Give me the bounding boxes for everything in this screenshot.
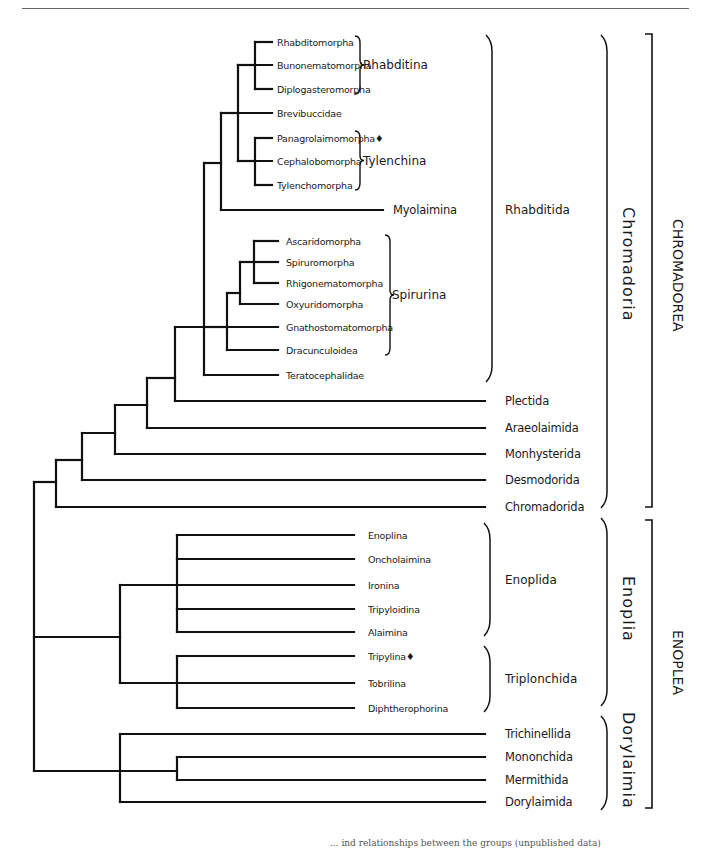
taxon-label: Rhigonematomorpha <box>286 278 383 289</box>
group-label-enoplida: Enoplida <box>505 573 557 587</box>
taxon-label: Oncholaimina <box>368 554 431 565</box>
taxon-label: Araeolaimida <box>505 421 579 435</box>
taxon-label: Diphtherophorina <box>368 703 448 714</box>
taxon-label: Oxyuridomorpha <box>286 299 363 310</box>
taxon-label: Spiruromorpha <box>286 257 354 268</box>
bracket-chromadorea <box>645 34 652 507</box>
rank-label-chromadoria: Chromadoria <box>619 207 638 322</box>
taxon-label: Tylenchomorpha <box>277 180 353 191</box>
taxon-label: Mononchida <box>505 750 573 764</box>
bracket-enoplida <box>484 523 490 636</box>
taxon-label: Monhysterida <box>505 447 581 461</box>
taxon-label: Desmodorida <box>505 473 580 487</box>
taxon-label: Tripyloidina <box>368 604 420 615</box>
taxon-label: Dorylaimida <box>505 795 572 809</box>
bracket-dorylaimia <box>601 716 607 810</box>
taxon-label: Diplogasteromorpha <box>277 84 371 95</box>
group-label-rhabditida: Rhabditida <box>505 203 570 217</box>
taxon-label: Cephalobomorpha <box>277 156 362 167</box>
taxon-label: Ironina <box>368 580 399 591</box>
caption-fragment: ... ind relationships between the groups… <box>330 838 601 848</box>
taxon-label: Rhabditomorpha <box>277 37 354 48</box>
taxon-label: Dracunculoidea <box>286 345 358 356</box>
group-label-triplonchida: Triplonchida <box>505 672 577 686</box>
taxon-label: Tobrilina <box>368 678 406 689</box>
bracket-chromadoria <box>601 35 607 508</box>
rank-label-dorylaimia: Dorylaimia <box>619 712 638 809</box>
taxon-label: Panagrolaimomorpha♦ <box>277 133 383 144</box>
bracket-enoplea <box>645 520 652 808</box>
bracket-enoplia <box>601 518 607 706</box>
taxon-label: Myolaimina <box>393 203 457 217</box>
rank-label-enoplia: Enoplia <box>619 576 638 642</box>
taxon-label: Gnathostomatomorpha <box>286 322 393 333</box>
taxon-label: Plectida <box>505 394 549 408</box>
phylogenetic-tree <box>0 0 710 849</box>
taxon-label: Trichinellida <box>505 727 571 741</box>
taxon-label: Tripylina♦ <box>368 651 414 662</box>
rank-label-chromadorea: CHROMADOREA <box>670 219 686 332</box>
taxon-label: Bunonematomorpha <box>277 60 372 71</box>
taxon-label: Brevibuccidae <box>277 108 342 119</box>
bracket-rhabditida <box>486 35 492 382</box>
taxon-label: Chromadorida <box>505 500 584 514</box>
rank-label-enoplea: ENOPLEA <box>670 630 686 695</box>
taxon-label: Alaimina <box>368 627 408 638</box>
taxon-label: Ascaridomorpha <box>286 236 361 247</box>
taxon-label: Mermithida <box>505 773 568 787</box>
group-label-rhabditina: Rhabditina <box>363 58 428 72</box>
taxon-label: Enoplina <box>368 530 407 541</box>
bracket-triplonchida <box>484 646 490 712</box>
group-label-tylenchina: Tylenchina <box>363 154 426 168</box>
taxon-label: Teratocephalidae <box>286 370 364 381</box>
group-label-spirurina: Spirurina <box>392 288 446 302</box>
